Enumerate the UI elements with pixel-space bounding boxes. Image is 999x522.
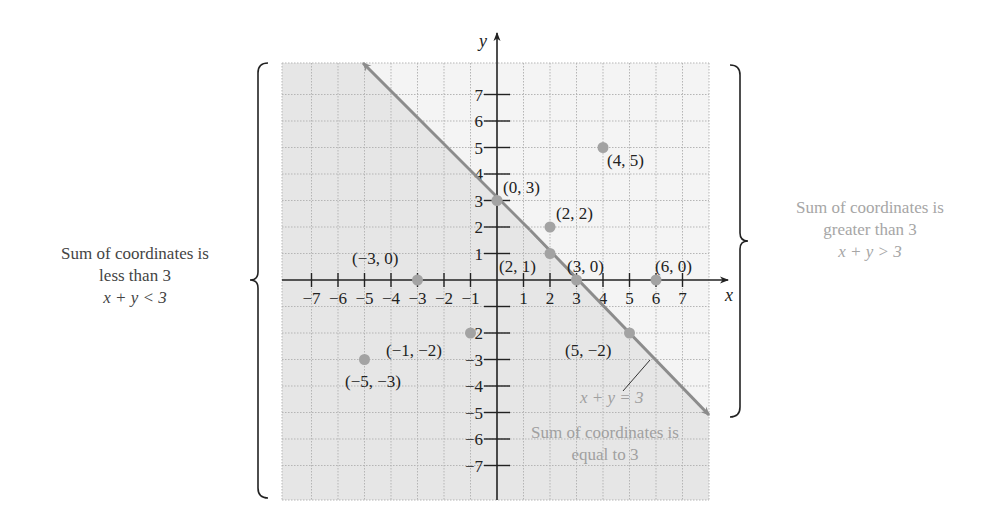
x-tick-label: −4 bbox=[382, 289, 401, 308]
y-tick-label: 5 bbox=[475, 139, 484, 158]
left-region-annotation: Sum of coordinates is less than 3 x + y … bbox=[20, 243, 250, 309]
y-tick-label: 3 bbox=[475, 192, 484, 211]
y-tick-label: −7 bbox=[465, 457, 484, 476]
point-6-0 bbox=[651, 275, 662, 286]
line-annotation-line1: Sum of coordinates is bbox=[500, 422, 710, 444]
x-tick-label: 3 bbox=[572, 289, 581, 308]
point-2-1 bbox=[545, 248, 556, 259]
y-tick-label: −6 bbox=[465, 430, 483, 449]
line-annotation-line2: equal to 3 bbox=[500, 444, 710, 466]
x-tick-label: −1 bbox=[461, 289, 479, 308]
point-label: (5, −2) bbox=[565, 341, 611, 360]
x-tick-label: 5 bbox=[625, 289, 634, 308]
line-annotation: Sum of coordinates is equal to 3 bbox=[500, 422, 710, 466]
left-annotation-line2: less than 3 bbox=[20, 265, 250, 287]
y-tick-label: −5 bbox=[465, 404, 483, 423]
y-tick-label: −4 bbox=[465, 377, 484, 396]
x-tick-label: −7 bbox=[302, 289, 321, 308]
point-label: (6, 0) bbox=[655, 257, 692, 276]
point-0-3 bbox=[492, 195, 503, 206]
line-equation-label: x + y = 3 bbox=[580, 388, 644, 408]
point-2-2 bbox=[545, 222, 556, 233]
x-tick-label: −2 bbox=[435, 289, 453, 308]
left-annotation-inequality: x + y < 3 bbox=[20, 287, 250, 309]
right-annotation-line1: Sum of coordinates is bbox=[745, 197, 995, 219]
x-axis-label: x bbox=[724, 285, 733, 305]
point-label: (2, 2) bbox=[556, 204, 593, 223]
right-region-annotation: Sum of coordinates is greater than 3 x +… bbox=[745, 197, 995, 263]
point-label: (−1, −2) bbox=[386, 341, 442, 360]
left-annotation-line1: Sum of coordinates is bbox=[20, 243, 250, 265]
x-tick-label: 2 bbox=[546, 289, 555, 308]
y-tick-label: 2 bbox=[475, 218, 484, 237]
x-tick-label: −6 bbox=[329, 289, 347, 308]
x-tick-label: 7 bbox=[678, 289, 687, 308]
point-neg3-0 bbox=[412, 275, 423, 286]
x-tick-label: −5 bbox=[355, 289, 373, 308]
y-tick-label: 7 bbox=[475, 86, 484, 105]
point-neg5-neg3 bbox=[359, 354, 370, 365]
point-label: (3, 0) bbox=[567, 257, 604, 276]
left-brace bbox=[250, 63, 268, 498]
y-tick-label: 1 bbox=[475, 245, 484, 264]
y-tick-label: −3 bbox=[465, 351, 483, 370]
point-label: (−5, −3) bbox=[345, 372, 401, 391]
x-tick-label: 6 bbox=[652, 289, 661, 308]
point-label: (2, 1) bbox=[499, 257, 536, 276]
point-label: (−3, 0) bbox=[352, 249, 398, 268]
right-annotation-inequality: x + y > 3 bbox=[745, 241, 995, 263]
y-axis-label: y bbox=[477, 31, 487, 51]
point-3-0 bbox=[571, 275, 582, 286]
point-label: (4, 5) bbox=[607, 151, 644, 170]
point-5-neg2 bbox=[624, 328, 635, 339]
right-annotation-line2: greater than 3 bbox=[745, 219, 995, 241]
x-tick-label: −3 bbox=[408, 289, 426, 308]
x-tick-label: 1 bbox=[519, 289, 528, 308]
point-label: (0, 3) bbox=[503, 178, 540, 197]
y-tick-label: 6 bbox=[475, 112, 484, 131]
point-neg1-neg2 bbox=[465, 328, 476, 339]
